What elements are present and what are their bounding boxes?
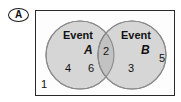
part-label-text: A xyxy=(15,10,22,20)
set-a-letter-label: A xyxy=(84,44,93,56)
set-b-only-element: 3 xyxy=(128,63,134,74)
outside-sets-element: 1 xyxy=(41,79,47,90)
set-b-only-element: 5 xyxy=(159,53,165,64)
set-b-letter-label: B xyxy=(141,44,150,56)
set-a-name-label: Event xyxy=(63,30,93,41)
set-a-only-element: 6 xyxy=(88,63,94,74)
set-intersection-element: 2 xyxy=(103,46,109,57)
set-b-name-label: Event xyxy=(121,30,151,41)
universal-set-rectangle: Event A Event B 4 6 2 3 5 1 xyxy=(35,10,175,96)
part-label-badge: A xyxy=(8,8,29,22)
venn-diagram-figure: A Event A Event B 4 xyxy=(0,0,181,102)
set-a-only-element: 4 xyxy=(65,63,71,74)
